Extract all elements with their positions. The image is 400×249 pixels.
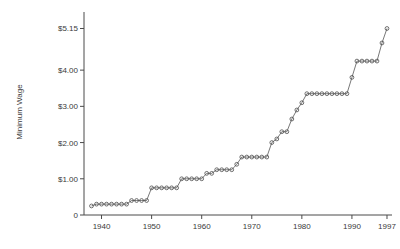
x-tick-label: 1980 xyxy=(293,222,311,231)
y-tick-label: 0 xyxy=(74,211,79,220)
y-tick-label: $4.00 xyxy=(58,66,79,75)
y-axis: 0$1.00$2.00$3.00$4.00$5.15 xyxy=(58,12,84,220)
data-point xyxy=(90,204,94,208)
x-tick-label: 1950 xyxy=(143,222,161,231)
x-tick-label: 1940 xyxy=(93,222,111,231)
x-tick-label: 1997 xyxy=(378,222,396,231)
chart-canvas: Minimum Wage 0$1.00$2.00$3.00$4.00$5.15 … xyxy=(0,0,400,249)
minimum-wage-chart: Minimum Wage 0$1.00$2.00$3.00$4.00$5.15 … xyxy=(0,0,400,249)
data-series xyxy=(90,27,389,208)
y-tick-label: $2.00 xyxy=(58,139,79,148)
y-tick-label: $1.00 xyxy=(58,175,79,184)
x-tick-label: 1970 xyxy=(243,222,261,231)
y-axis-title-text: Minimum Wage xyxy=(15,84,24,140)
y-tick-label: $5.15 xyxy=(58,24,79,33)
x-tick-label: 1990 xyxy=(343,222,361,231)
x-tick-label: 1960 xyxy=(193,222,211,231)
x-axis: 1940195019601970198019901997 xyxy=(84,215,396,231)
y-axis-title: Minimum Wage xyxy=(15,84,24,140)
y-tick-label: $3.00 xyxy=(58,102,79,111)
